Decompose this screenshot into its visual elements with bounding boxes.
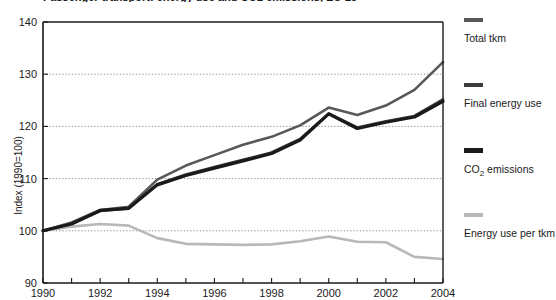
- legend-label: CO2 emissions: [464, 163, 534, 175]
- legend-item-energy-use-per-tkm: Energy use per tkm: [464, 213, 556, 241]
- legend-item-co2-emissions: CO2 emissions: [464, 148, 556, 180]
- x-axis-tick-labels: 19901992199419961998200020022004: [31, 287, 455, 299]
- legend-swatch-icon: [464, 213, 483, 217]
- y-axis-tick-labels: 90100110120130140: [19, 16, 37, 289]
- chart-legend: Total tkm Final energy use CO2 emissions…: [464, 0, 554, 300]
- legend-label: Energy use per tkm: [464, 227, 555, 239]
- svg-text:2004: 2004: [431, 287, 455, 299]
- legend-item-final-energy-use: Final energy use: [464, 83, 556, 111]
- plot-lines: [43, 62, 443, 259]
- svg-text:90: 90: [25, 277, 37, 289]
- svg-text:140: 140: [19, 16, 37, 28]
- gridlines: [43, 74, 443, 231]
- svg-text:130: 130: [19, 68, 37, 80]
- svg-text:1994: 1994: [145, 287, 169, 299]
- svg-text:1996: 1996: [202, 287, 226, 299]
- legend-item-total-tkm: Total tkm: [464, 18, 556, 46]
- svg-text:120: 120: [19, 120, 37, 132]
- svg-text:110: 110: [19, 173, 37, 185]
- legend-swatch-icon: [464, 83, 483, 87]
- svg-text:2000: 2000: [316, 287, 340, 299]
- svg-text:2002: 2002: [374, 287, 398, 299]
- legend-swatch-icon: [464, 18, 483, 22]
- legend-label: Final energy use: [464, 97, 542, 109]
- legend-label: Total tkm: [464, 32, 506, 44]
- svg-text:100: 100: [19, 225, 37, 237]
- legend-swatch-icon: [464, 148, 483, 153]
- svg-text:1998: 1998: [259, 287, 283, 299]
- svg-text:1992: 1992: [88, 287, 112, 299]
